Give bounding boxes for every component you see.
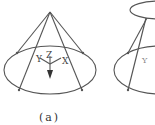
figure-canvas [0, 0, 155, 125]
frustum-base-ellipse [114, 46, 155, 94]
axis-label-z: Z [46, 50, 52, 60]
frustum-top-ellipse [130, 1, 155, 19]
axis-label-y: Y [36, 54, 42, 64]
frustum-rib [128, 18, 146, 90]
axis-label-x: X [62, 56, 68, 66]
figure-caption: (a) [39, 111, 60, 124]
axis-label-y-panel-b: Y [142, 56, 147, 65]
panel-b-frustum [114, 1, 155, 94]
cone-rib [17, 12, 50, 53]
cone-rib [50, 12, 83, 53]
